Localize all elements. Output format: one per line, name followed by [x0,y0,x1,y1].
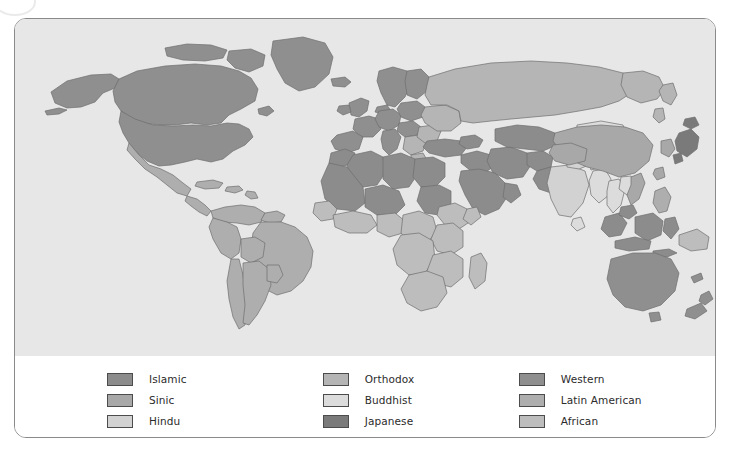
legend-item-japanese: Japanese [323,414,519,429]
legend-item-sinic: Sinic [107,393,323,408]
legend-column-1: Islamic Sinic Hindu [107,372,323,437]
legend-label-african: African [561,415,598,428]
legend-label-sinic: Sinic [149,394,174,407]
legend-column-3: Western Latin American African [519,372,715,437]
legend-item-latin-american: Latin American [519,393,715,408]
legend-swatch-orthodox [323,373,349,386]
legend-item-islamic: Islamic [107,372,323,387]
legend-swatch-african [519,415,545,428]
legend-swatch-buddhist [323,394,349,407]
legend-label-western: Western [561,373,605,386]
legend-label-orthodox: Orthodox [365,373,415,386]
world-map-svg: .s{stroke:#6f6f6f;stroke-width:.7;stroke… [15,19,715,356]
scan-artifact-mark [0,0,36,16]
legend-swatch-sinic [107,394,133,407]
legend-column-2: Orthodox Buddhist Japanese [323,372,519,437]
legend-item-buddhist: Buddhist [323,393,519,408]
legend-label-japanese: Japanese [365,415,413,428]
legend-item-orthodox: Orthodox [323,372,519,387]
legend-item-african: African [519,414,715,429]
legend-label-buddhist: Buddhist [365,394,412,407]
legend-item-western: Western [519,372,715,387]
legend-swatch-islamic [107,373,133,386]
region-tasmania [649,312,661,322]
figure-container: .s{stroke:#6f6f6f;stroke-width:.7;stroke… [14,18,716,438]
screenshot-root: .s{stroke:#6f6f6f;stroke-width:.7;stroke… [0,0,734,458]
map-legend: Islamic Sinic Hindu Orthodox [15,356,715,437]
legend-swatch-western [519,373,545,386]
legend-swatch-japanese [323,415,349,428]
legend-swatch-hindu [107,415,133,428]
legend-label-latin-american: Latin American [561,394,642,407]
world-map-panel: .s{stroke:#6f6f6f;stroke-width:.7;stroke… [15,19,715,356]
legend-item-hindu: Hindu [107,414,323,429]
legend-swatch-latin-american [519,394,545,407]
legend-label-islamic: Islamic [149,373,187,386]
legend-label-hindu: Hindu [149,415,180,428]
